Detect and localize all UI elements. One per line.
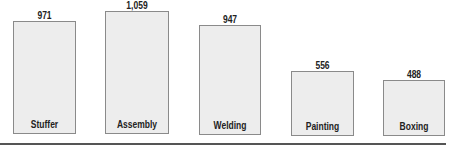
bar-assembly: 1,059 Assembly [105, 11, 169, 134]
bar-category-label: Assembly [111, 119, 164, 131]
bar-category-label: Welding [205, 120, 256, 132]
bar-value-label: 947 [205, 14, 256, 25]
bar-value-label: 971 [19, 10, 71, 21]
bar-welding: 947 Welding [199, 25, 261, 135]
bar-chart: 971 Stuffer 1,059 Assembly 947 Welding 5… [0, 0, 458, 147]
chart-baseline [0, 143, 446, 145]
bar-value-label: 488 [389, 69, 440, 80]
bar-painting: 556 Painting [291, 71, 354, 136]
bar-boxing: 488 Boxing [383, 80, 445, 136]
bar-category-label: Painting [297, 121, 349, 133]
bar-value-label: 1,059 [111, 0, 164, 11]
bar-category-label: Boxing [389, 121, 440, 133]
bar-stuffer: 971 Stuffer [13, 21, 76, 134]
bar-value-label: 556 [297, 60, 349, 71]
bar-category-label: Stuffer [19, 119, 71, 131]
